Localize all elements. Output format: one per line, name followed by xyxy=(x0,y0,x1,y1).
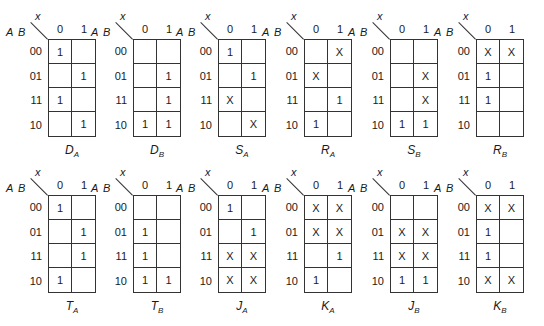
kmap-cell: 1 xyxy=(49,88,72,112)
column-variable-label: x xyxy=(463,166,469,178)
column-variable-label: x xyxy=(463,10,469,22)
row-variables-label: A B xyxy=(348,26,368,38)
row-header: 10 xyxy=(276,119,298,131)
diagonal-divider xyxy=(30,178,48,196)
row-header: 01 xyxy=(105,70,127,82)
kmap-s-b: xA B0100011110XX11SB xyxy=(342,0,428,160)
column-header: 0 xyxy=(48,23,72,35)
column-header: 0 xyxy=(304,23,328,35)
kmap-title: KB xyxy=(476,299,524,315)
kmap-grid: XX11XX xyxy=(476,195,524,293)
diagonal-divider xyxy=(458,22,476,40)
function-subscript: A xyxy=(242,306,247,315)
row-header: 00 xyxy=(362,201,384,213)
kmap-cell: 1 xyxy=(134,112,157,136)
function-name: R xyxy=(493,143,502,157)
diagonal-divider xyxy=(372,22,390,40)
kmap-cell: 1 xyxy=(134,244,157,268)
diagonal-divider xyxy=(372,178,390,196)
kmap-cell xyxy=(49,244,72,268)
kmap-cell: X xyxy=(391,244,414,268)
function-name: R xyxy=(321,143,330,157)
row-variables-label: A B xyxy=(6,26,26,38)
row-header: 11 xyxy=(448,94,470,106)
row-header: 11 xyxy=(20,94,42,106)
row-header: 10 xyxy=(190,119,212,131)
row-variables-label: A B xyxy=(91,26,111,38)
row-header: 10 xyxy=(276,275,298,287)
diagonal-divider xyxy=(30,22,48,40)
kmap-d-a: xA B01000111101111DA xyxy=(0,0,86,160)
kmap-cell xyxy=(500,220,523,244)
row-header: 00 xyxy=(20,201,42,213)
kmap-t-b: xA B01000111101111TB xyxy=(85,156,171,316)
row-header: 10 xyxy=(20,119,42,131)
function-subscript: B xyxy=(501,306,506,315)
kmap-cell xyxy=(391,64,414,88)
kmap-cell xyxy=(219,112,242,136)
row-header: 11 xyxy=(362,250,384,262)
row-variables-label: A B xyxy=(176,26,196,38)
kmap-cell: 1 xyxy=(477,64,500,88)
column-header: 0 xyxy=(133,23,157,35)
kmap-cell: X xyxy=(500,268,523,292)
kmap-cell xyxy=(134,40,157,64)
row-header: 11 xyxy=(276,250,298,262)
column-header: 0 xyxy=(133,179,157,191)
kmap-cell: X xyxy=(477,268,500,292)
kmap-cell: X xyxy=(500,40,523,64)
kmap-cell: 1 xyxy=(49,196,72,220)
kmap-cell xyxy=(391,88,414,112)
column-variable-label: x xyxy=(291,166,297,178)
kmap-cell: X xyxy=(477,40,500,64)
diagonal-divider xyxy=(115,22,133,40)
kmap-s-a: xA B010001111011XXSA xyxy=(170,0,256,160)
row-header: 10 xyxy=(362,119,384,131)
kmap-cell xyxy=(391,40,414,64)
row-variables-label: A B xyxy=(434,26,454,38)
row-header: 01 xyxy=(362,70,384,82)
diagonal-divider xyxy=(200,178,218,196)
row-header: 10 xyxy=(105,275,127,287)
row-header: 11 xyxy=(105,94,127,106)
kmap-cell: 1 xyxy=(477,220,500,244)
column-variable-label: x xyxy=(377,10,383,22)
kmap-cell: 1 xyxy=(391,112,414,136)
function-name: D xyxy=(150,143,159,157)
row-header: 01 xyxy=(448,226,470,238)
row-header: 00 xyxy=(190,45,212,57)
diagonal-divider xyxy=(200,22,218,40)
kmap-cell: 1 xyxy=(49,40,72,64)
kmap-cell xyxy=(305,88,328,112)
row-variables-label: A B xyxy=(434,182,454,194)
kmap-cell xyxy=(500,112,523,136)
column-variable-label: x xyxy=(291,10,297,22)
function-subscript: B xyxy=(158,306,163,315)
kmap-cell xyxy=(391,196,414,220)
column-variable-label: x xyxy=(205,166,211,178)
row-variables-label: A B xyxy=(176,182,196,194)
kmap-cell xyxy=(305,244,328,268)
kmap-j-a: xA B010001111011XXXXJA xyxy=(170,156,256,316)
row-header: 01 xyxy=(20,226,42,238)
row-header: 01 xyxy=(190,70,212,82)
row-header: 01 xyxy=(105,226,127,238)
row-variables-label: A B xyxy=(91,182,111,194)
kmap-cell xyxy=(134,88,157,112)
function-subscript: B xyxy=(414,306,419,315)
column-variable-label: x xyxy=(120,166,126,178)
row-header: 01 xyxy=(276,226,298,238)
row-header: 11 xyxy=(190,94,212,106)
kmap-cell: X xyxy=(391,220,414,244)
function-subscript: A xyxy=(329,306,334,315)
kmap-k-b: xA B0100011110XX11XXKB xyxy=(428,156,514,316)
row-header: 00 xyxy=(362,45,384,57)
kmap-cell: 1 xyxy=(391,268,414,292)
kmap-cell: 1 xyxy=(305,268,328,292)
kmap-j-b: xA B0100011110XXXX11JB xyxy=(342,156,428,316)
row-header: 00 xyxy=(276,45,298,57)
kmap-cell xyxy=(134,196,157,220)
kmap-cell: 1 xyxy=(305,112,328,136)
column-header: 0 xyxy=(476,179,500,191)
kmap-cell: X xyxy=(219,88,242,112)
